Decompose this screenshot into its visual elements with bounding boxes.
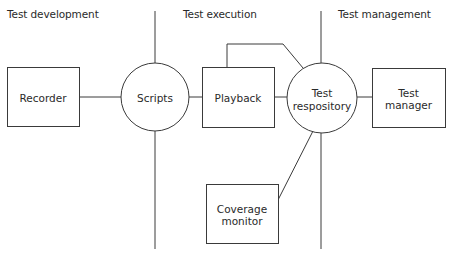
node-label-scripts: Scripts bbox=[137, 92, 173, 105]
section-header-test-management: Test management bbox=[338, 8, 431, 20]
connector-playback-repository-loop bbox=[227, 44, 303, 68]
section-header-test-development: Test development bbox=[7, 8, 99, 20]
connector-repository-coverage bbox=[278, 131, 313, 200]
node-label-recorder: Recorder bbox=[19, 91, 66, 104]
node-label-test-repository: Test respository bbox=[293, 87, 352, 112]
node-label-coverage-monitor: Coverage monitor bbox=[217, 202, 267, 227]
section-header-test-execution: Test execution bbox=[183, 8, 257, 20]
node-label-test-manager: Test manager bbox=[385, 86, 432, 111]
node-label-playback: Playback bbox=[215, 92, 262, 105]
